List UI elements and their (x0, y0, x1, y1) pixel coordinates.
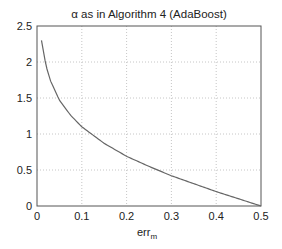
x-tick-label: 0.4 (209, 210, 224, 222)
x-axis-ticks: 00.10.20.30.40.5 (34, 210, 269, 222)
x-axis-label-subscript: m (150, 232, 157, 241)
y-tick-label: 1 (26, 128, 32, 140)
y-tick-label: 1.5 (17, 92, 32, 104)
x-tick-label: 0 (34, 210, 40, 222)
x-tick-label: 0.3 (164, 210, 179, 222)
y-tick-label: 0 (26, 200, 32, 212)
y-tick-label: 0.5 (17, 164, 32, 176)
alpha-curve (41, 40, 261, 206)
x-axis-label: errm (137, 226, 157, 241)
chart-title: α as in Algorithm 4 (AdaBoost) (71, 8, 227, 20)
x-tick-label: 0.5 (253, 210, 268, 222)
x-axis-label-main: err (137, 226, 151, 238)
x-tick-label: 0.1 (74, 210, 89, 222)
alpha-chart: α as in Algorithm 4 (AdaBoost) 00.10.20.… (0, 0, 282, 249)
x-tick-label: 0.2 (119, 210, 134, 222)
y-tick-label: 2.5 (17, 20, 32, 32)
y-axis-ticks: 00.511.522.5 (17, 20, 32, 212)
y-tick-label: 2 (26, 56, 32, 68)
